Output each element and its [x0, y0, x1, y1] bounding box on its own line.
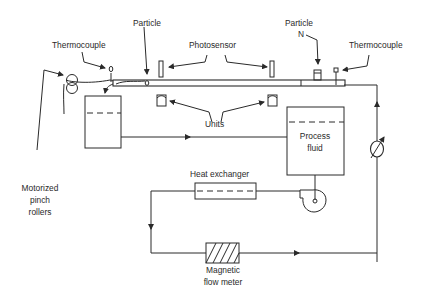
photosensor-label: Photosensor	[189, 40, 236, 50]
photosensor-leader-1	[169, 55, 207, 67]
particle-label: Particle	[133, 18, 161, 28]
heat-exchanger	[195, 183, 256, 199]
units-2	[268, 95, 277, 106]
photosensor-leader-2	[225, 55, 267, 67]
outlet-arrow	[105, 84, 113, 93]
pinch-rollers	[64, 75, 116, 115]
thermocouple-left-leader	[82, 52, 105, 68]
photosensor-2	[270, 61, 274, 77]
particle-n	[314, 70, 321, 80]
collection-tank	[85, 96, 121, 148]
thermocouple-left-label: Thermocouple	[52, 40, 106, 50]
motorized-label-line1: Motorized	[22, 183, 59, 193]
motorized-label-line3: rollers	[29, 207, 52, 217]
particle-n-label-line1: Particle	[285, 18, 313, 28]
thermocouple-right-leader	[343, 55, 369, 70]
photosensor-1	[159, 61, 163, 77]
thermocouple-right-label: Thermocouple	[349, 40, 403, 50]
process-fluid-tank	[287, 107, 344, 175]
process-fluid-label-line1: Process	[300, 131, 330, 141]
particle-n-leader	[306, 35, 318, 64]
flow-meter-label-line2: flow meter	[204, 277, 243, 287]
flow-loop-diagram: Thermocouple Particle Photosensor Partic…	[0, 0, 431, 297]
motorized-label-line2: pinch	[30, 195, 50, 205]
units-label: Units	[205, 119, 224, 129]
flow-meter-label-line1: Magnetic	[206, 265, 240, 275]
particle-n-label-line2: N	[298, 29, 304, 39]
process-fluid-label-line2: fluid	[307, 143, 323, 153]
pump	[300, 175, 326, 212]
flow-meter	[206, 243, 239, 263]
heat-exchanger-label: Heat exchanger	[190, 169, 249, 179]
units-1	[157, 95, 166, 106]
motorized-leader-line	[37, 70, 63, 150]
particle-leader	[144, 27, 147, 74]
units-leader-2	[221, 102, 264, 122]
